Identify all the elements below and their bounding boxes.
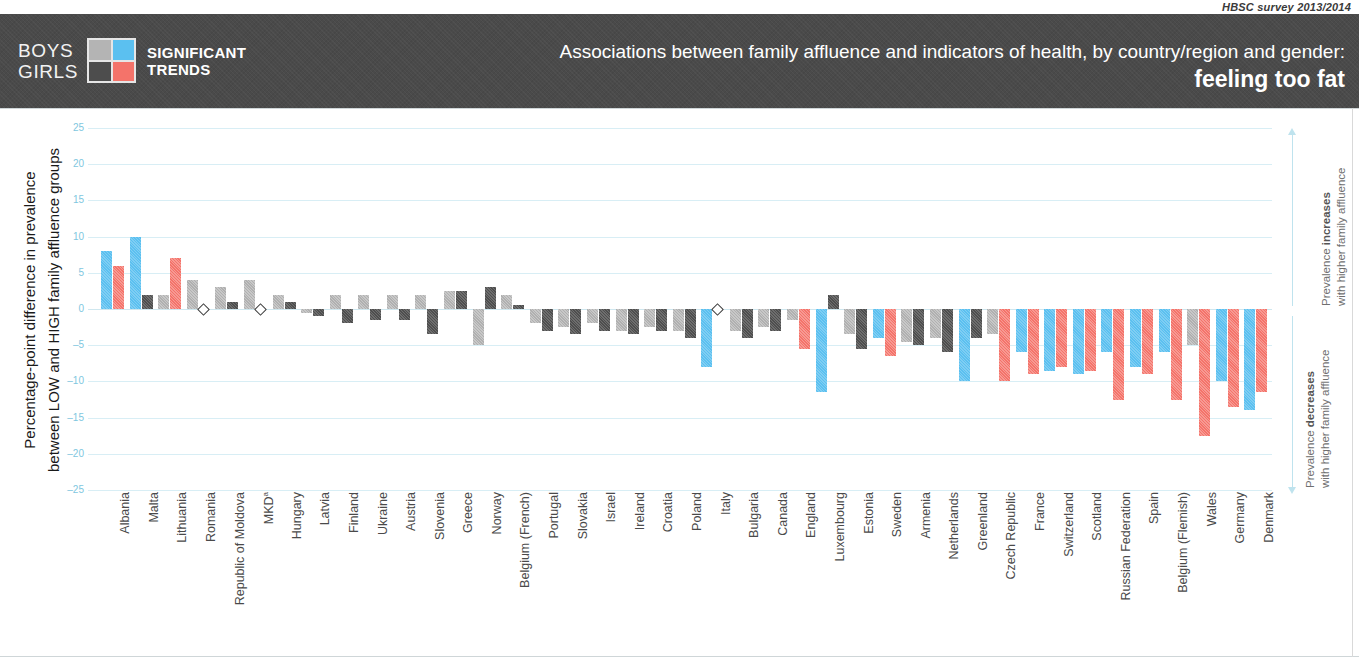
x-axis-label: Malta <box>147 492 161 523</box>
y-tick-label-15: 15 <box>56 194 84 205</box>
right-annotations: Prevalence increases with higher family … <box>1284 128 1359 500</box>
legend-swatch-girls-significant <box>113 62 135 82</box>
decrease-annotation-line2: with higher family affluence <box>1319 308 1337 488</box>
bar-boys <box>473 309 484 345</box>
bar-girls <box>313 309 324 316</box>
bar-girls <box>227 302 238 309</box>
x-axis-label: England <box>804 492 818 538</box>
bar-girls <box>1142 309 1153 374</box>
bar-boys <box>101 251 112 309</box>
bar-boys <box>387 295 398 309</box>
x-axis-label: Armenia <box>919 492 933 539</box>
header-band: BOYS GIRLS SIGNIFICANT TRENDS Associatio… <box>0 14 1359 108</box>
bar-girls <box>542 309 553 331</box>
x-axis-label: Finland <box>347 492 361 533</box>
bar-group <box>386 128 415 490</box>
legend-caption-line1: SIGNIFICANT <box>147 44 246 61</box>
y-tick-label--10: –10 <box>56 375 84 386</box>
bar-girls <box>170 258 181 309</box>
x-axis-label: Norway <box>490 492 504 534</box>
x-axis-label: Slovakia <box>576 492 590 539</box>
bar-boys <box>1044 309 1055 371</box>
bar-group <box>615 128 644 490</box>
bar-girls <box>485 287 496 309</box>
y-tick-label-20: 20 <box>56 158 84 169</box>
page-title-indicator: feeling too fat <box>345 66 1345 93</box>
legend-swatch-girls-nonsignificant <box>89 62 111 82</box>
legend-boys-label: BOYS <box>18 40 78 61</box>
bar-group <box>557 128 586 490</box>
x-axis-label: Denmark <box>1262 492 1276 543</box>
bar-group <box>472 128 501 490</box>
bar-boys <box>187 280 198 309</box>
x-axis-label: Sweden <box>890 492 904 537</box>
decrease-arrow-line <box>1292 316 1293 488</box>
bar-girls <box>1256 309 1267 392</box>
x-axis-label: Belgium (Flemish) <box>1176 492 1190 593</box>
bar-boys <box>701 309 712 367</box>
bar-girls <box>1028 309 1039 374</box>
bar-group <box>529 128 558 490</box>
increase-arrow-line <box>1292 134 1293 306</box>
bar-boys <box>415 295 426 309</box>
page-title-main: Associations between family affluence an… <box>345 40 1345 64</box>
bar-group <box>786 128 815 490</box>
bar-boys <box>730 309 741 331</box>
bar-boys <box>530 309 541 323</box>
x-axis-label: Spain <box>1147 492 1161 524</box>
bar-group <box>272 128 301 490</box>
bar-group <box>1158 128 1187 490</box>
zero-marker-diamond <box>711 303 724 316</box>
bar-group <box>586 128 615 490</box>
bar-group <box>157 128 186 490</box>
bar-girls <box>628 309 639 334</box>
x-axis-labels: AlbaniaMaltaLithuaniaRomaniaRepublic of … <box>100 492 1272 657</box>
y-tick-label-25: 25 <box>56 122 84 133</box>
increase-annotation-bold: increases <box>1320 192 1332 245</box>
bar-group <box>100 128 129 490</box>
x-axis-label: Luxembourg <box>833 492 847 562</box>
bar-group <box>986 128 1015 490</box>
bar-boys <box>644 309 655 327</box>
bar-group <box>1215 128 1244 490</box>
bar-boys <box>844 309 855 334</box>
bar-boys <box>987 309 998 334</box>
bar-group <box>1015 128 1044 490</box>
bar-group <box>129 128 158 490</box>
x-axis-label: Wales <box>1205 492 1219 526</box>
bar-group <box>1100 128 1129 490</box>
x-axis-label: France <box>1033 492 1047 531</box>
bar-boys <box>758 309 769 327</box>
bar-boys <box>1073 309 1084 374</box>
bar-boys <box>158 295 169 309</box>
x-axis-label: Ukraine <box>376 492 390 535</box>
bar-girls <box>427 309 438 334</box>
x-axis-label: Romania <box>204 492 218 542</box>
bar-girls <box>1085 309 1096 371</box>
bar-group <box>300 128 329 490</box>
bar-group <box>443 128 472 490</box>
legend-swatch-boys-significant <box>113 40 135 60</box>
bar-group <box>1043 128 1072 490</box>
bar-girls <box>399 309 410 320</box>
x-axis-label: Italy <box>719 492 733 515</box>
bar-boys <box>1187 309 1198 345</box>
bar-boys <box>673 309 684 331</box>
legend-caption: SIGNIFICANT TRENDS <box>147 44 246 78</box>
increase-arrow-head <box>1288 128 1296 135</box>
bar-group <box>643 128 672 490</box>
bar-boys <box>873 309 884 338</box>
bar-group <box>243 128 272 490</box>
x-axis-label: Republic of Moldova <box>233 492 247 605</box>
decrease-annotation-bold: decreases <box>1304 371 1316 427</box>
x-axis-label: Poland <box>690 492 704 531</box>
bar-girls <box>113 266 124 309</box>
bar-boys <box>301 309 312 313</box>
source-line: HBSC survey 2013/2014 <box>1222 0 1351 14</box>
x-axis-label: Bulgaria <box>747 492 761 538</box>
bar-boys <box>587 309 598 323</box>
bar-group <box>1129 128 1158 490</box>
x-axis-label: Albania <box>118 492 132 534</box>
x-axis-label: Portugal <box>547 492 561 539</box>
legend: BOYS GIRLS SIGNIFICANT TRENDS <box>18 38 246 83</box>
